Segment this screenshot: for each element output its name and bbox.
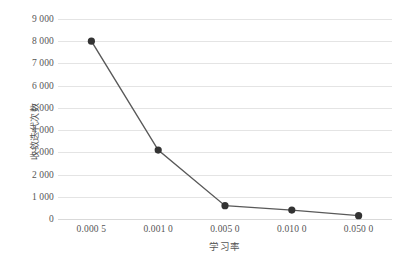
gridline-8000 [58, 41, 392, 42]
y-tick-label-7000: 7 000 [0, 58, 54, 68]
y-tick-label-8000: 8 000 [0, 36, 54, 46]
chart-container: 收敛迭代次数 01 0002 0003 0004 0005 0006 0007 … [0, 0, 408, 261]
plot-area [58, 19, 392, 219]
y-tick-label-9000: 9 000 [0, 14, 54, 24]
x-axis-title: 学习率 [58, 239, 392, 253]
gridline-1000 [58, 197, 392, 198]
gridline-9000 [58, 19, 392, 20]
y-tick-label-2000: 2 000 [0, 170, 54, 180]
gridline-7000 [58, 63, 392, 64]
gridline-6000 [58, 86, 392, 87]
y-tick-label-4000: 4 000 [0, 125, 54, 135]
y-tick-label-1000: 1 000 [0, 192, 54, 202]
x-axis-tick-labels: 0.000 50.001 00.005 00.010 00.050 0 [58, 224, 392, 238]
gridline-5000 [58, 108, 392, 109]
y-tick-label-5000: 5 000 [0, 103, 54, 113]
x-tick-label-1: 0.001 0 [143, 224, 173, 234]
x-tick-label-3: 0.010 0 [277, 224, 307, 234]
y-tick-label-0: 0 [0, 214, 54, 224]
x-tick-label-4: 0.050 0 [344, 224, 374, 234]
y-tick-label-3000: 3 000 [0, 147, 54, 157]
gridline-2000 [58, 175, 392, 176]
x-tick-label-0: 0.000 5 [77, 224, 107, 234]
gridline-3000 [58, 152, 392, 153]
gridline-4000 [58, 130, 392, 131]
y-tick-label-6000: 6 000 [0, 81, 54, 91]
x-tick-label-2: 0.005 0 [210, 224, 240, 234]
gridline-0 [58, 219, 392, 220]
y-axis-tick-labels: 01 0002 0003 0004 0005 0006 0007 0008 00… [0, 0, 54, 261]
